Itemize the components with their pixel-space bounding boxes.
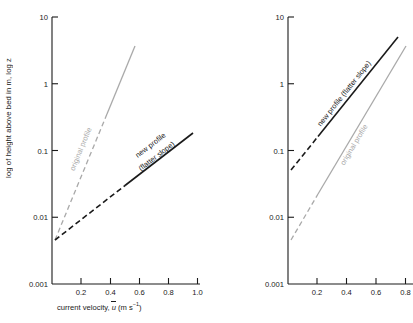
x-tick-label-left-0: 0.2	[76, 288, 87, 297]
x-tick-label-right-0: 0.2	[312, 288, 323, 297]
x-axis-ticks-right	[317, 278, 406, 284]
x-tick-label-right-2: 0.6	[371, 288, 382, 297]
y-tick-label-left-1: 1	[44, 80, 48, 89]
curve-right-original-profile-dashed	[291, 194, 318, 240]
x-tick-label-left-4: 1.0	[192, 288, 203, 297]
x-tick-label-right-1: 0.4	[341, 288, 352, 297]
y-tick-label-right-0: 10	[276, 13, 284, 22]
x-tick-label-left-3: 0.8	[163, 288, 174, 297]
curve-annotation-right-original-profile: original profile	[338, 123, 369, 167]
y-tick-label-left-4: 0.001	[29, 280, 48, 289]
x-tick-label-left-2: 0.6	[134, 288, 145, 297]
y-tick-label-right-1: 1	[280, 80, 284, 89]
y-tick-label-left-2: 0.1	[37, 147, 48, 156]
x-tick-label-left-1: 0.4	[105, 288, 116, 297]
y-tick-label-left-0: 10	[40, 13, 48, 22]
x-axis-ticks-left	[81, 278, 198, 284]
curve-left-original-profile-solid	[107, 46, 135, 114]
plot-panel-left: log of height above bed in m, log z curr…	[0, 0, 210, 323]
x-tick-label-right-3: 0.8	[400, 288, 411, 297]
y-tick-label-right-4: 0.001	[265, 280, 284, 289]
curve-right-new-profile-solid	[318, 37, 398, 137]
curve-annotation-left-original-profile: original profile	[68, 126, 94, 172]
y-axis-ticks-left	[52, 17, 58, 217]
y-tick-label-right-3: 0.01	[269, 213, 284, 222]
curve-right-new-profile-dashed	[291, 137, 318, 171]
plot-area-left: 10 1 0.1 0.01 0.001 0.2 0.4 0.6 0.8 1.0	[0, 0, 210, 323]
y-axis-ticks-right	[288, 17, 294, 217]
curve-left-original-profile-dashed	[55, 114, 107, 240]
plot-panel-right: log of height above bed in m, log z curr…	[205, 0, 413, 323]
plot-area-right: 10 1 0.1 0.01 0.001 0.2 0.4 0.6 0.8	[205, 0, 413, 323]
y-tick-label-left-3: 0.01	[33, 213, 48, 222]
y-tick-label-right-2: 0.1	[273, 147, 284, 156]
curve-left-new-profile-dashed	[55, 186, 125, 241]
figure-two-velocity-profile-plots: log of height above bed in m, log z curr…	[0, 0, 413, 323]
